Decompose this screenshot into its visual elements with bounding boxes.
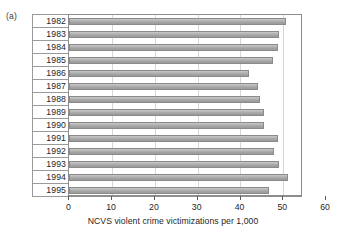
y-axis-label-1989: 1989 [32, 105, 68, 118]
bar-1987[interactable] [69, 83, 257, 90]
plot-area [68, 14, 302, 196]
bar-row [69, 28, 301, 41]
y-axis-label-1992: 1992 [32, 144, 68, 157]
bar-row [69, 80, 301, 93]
y-axis-label-1995: 1995 [32, 183, 68, 196]
y-axis-label-1990: 1990 [32, 118, 68, 131]
y-axis-label-1994: 1994 [32, 170, 68, 183]
x-tick-mark-20 [154, 196, 155, 200]
bar-1984[interactable] [69, 44, 278, 51]
panel-label: (a) [6, 11, 17, 21]
bar-1989[interactable] [69, 109, 264, 116]
bar-1993[interactable] [69, 161, 279, 168]
y-axis-label-1983: 1983 [32, 27, 68, 40]
y-axis-label-1988: 1988 [32, 92, 68, 105]
x-tick-mark-0 [68, 196, 69, 200]
x-tick-label-20: 20 [134, 202, 174, 212]
bar-1994[interactable] [69, 174, 288, 181]
y-axis-label-1987: 1987 [32, 79, 68, 92]
bar-1986[interactable] [69, 70, 249, 77]
y-axis-label-1993: 1993 [32, 157, 68, 170]
bar-row [69, 106, 301, 119]
bar-1985[interactable] [69, 57, 272, 64]
x-tick-label-50: 50 [262, 202, 302, 212]
x-tick-label-60: 60 [305, 202, 345, 212]
bar-1990[interactable] [69, 122, 264, 129]
x-axis-title: NCVS violent crime victimizations per 1,… [0, 216, 346, 226]
x-axis-line [68, 196, 302, 197]
x-tick-mark-60 [325, 196, 326, 200]
x-tick-mark-50 [282, 196, 283, 200]
x-tick-label-10: 10 [91, 202, 131, 212]
y-axis-label-1985: 1985 [32, 53, 68, 66]
x-tick-mark-40 [240, 196, 241, 200]
figure-panel-a: (a) 198219831984198519861987198819891990… [0, 0, 346, 237]
bar-row [69, 119, 301, 132]
bar-row [69, 145, 301, 158]
bar-1992[interactable] [69, 148, 274, 155]
bar-row [69, 41, 301, 54]
y-axis-label-1991: 1991 [32, 131, 68, 144]
bar-1991[interactable] [69, 135, 278, 142]
bar-row [69, 15, 301, 28]
bar-row [69, 132, 301, 145]
bar-1983[interactable] [69, 31, 279, 38]
bar-row [69, 67, 301, 80]
x-tick-label-0: 0 [48, 202, 88, 212]
bar-row [69, 171, 301, 184]
x-tick-label-40: 40 [220, 202, 260, 212]
x-tick-mark-30 [197, 196, 198, 200]
y-axis-label-1982: 1982 [32, 14, 68, 27]
x-tick-mark-10 [111, 196, 112, 200]
y-axis-label-1984: 1984 [32, 40, 68, 53]
y-axis-year-labels: 1982198319841985198619871988198919901991… [32, 14, 68, 196]
bar-1988[interactable] [69, 96, 260, 103]
bar-row [69, 93, 301, 106]
bar-1995[interactable] [69, 187, 268, 194]
x-tick-label-30: 30 [177, 202, 217, 212]
bar-row [69, 158, 301, 171]
bar-row [69, 54, 301, 67]
bar-1982[interactable] [69, 18, 286, 25]
y-axis-label-1986: 1986 [32, 66, 68, 79]
